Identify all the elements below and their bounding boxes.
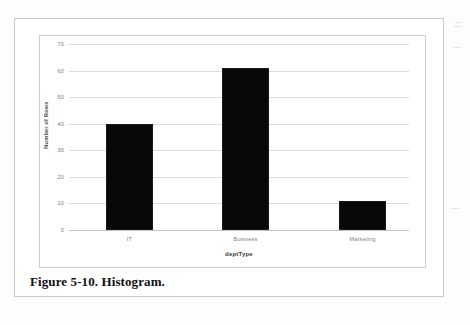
y-tick-label-0: 0 — [61, 227, 64, 233]
y-tick-label-60: 60 — [57, 68, 64, 74]
x-tick-label-marketing: Marketing — [350, 236, 376, 242]
y-tick-label-40: 40 — [57, 121, 64, 127]
bar-marketing[interactable] — [339, 201, 386, 230]
scanned-page-background: Number of Rows 70 60 50 40 30 20 10 0 — [0, 0, 470, 325]
scan-artifact-mark — [455, 22, 462, 23]
scan-artifact-mark — [451, 208, 460, 209]
gridline-70: 70 — [69, 44, 409, 45]
y-axis-title: Number of Rows — [43, 101, 49, 148]
bar-business[interactable] — [222, 68, 269, 230]
y-tick-label-30: 30 — [57, 147, 64, 153]
x-tick-label-business: Business — [234, 236, 258, 242]
y-tick-label-20: 20 — [57, 174, 64, 180]
figure-caption: Figure 5-10. Histogram. — [30, 274, 165, 290]
y-tick-label-50: 50 — [57, 94, 64, 100]
y-tick-label-70: 70 — [57, 41, 64, 47]
y-tick-label-10: 10 — [57, 200, 64, 206]
bar-it[interactable] — [106, 124, 153, 230]
scan-artifact-mark — [453, 47, 461, 48]
x-axis-title: deptType — [225, 251, 253, 257]
scan-artifact-mark — [453, 26, 462, 27]
gridline-0-baseline: 0 — [69, 230, 409, 231]
x-tick-label-it: IT — [127, 236, 132, 242]
plot-area: 70 60 50 40 30 20 10 0 IT Business Marke… — [69, 44, 409, 230]
